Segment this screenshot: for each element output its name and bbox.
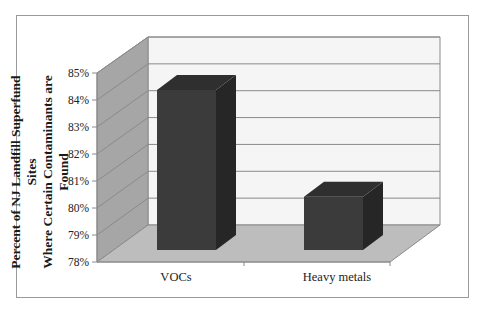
- y-axis-title-line-2: Where Certain Contaminants are Found: [40, 62, 72, 282]
- bar-heavy-metals: [304, 182, 383, 250]
- x-category-label: VOCs: [160, 270, 191, 284]
- y-axis-title-line-1: Percent of NJ Landfill Superfund Sites: [8, 62, 40, 282]
- chart-plot: 78%79%80%81%82%83%84%85% VOCsHeavy metal…: [0, 0, 483, 324]
- floor: [97, 225, 440, 262]
- x-category-label: Heavy metals: [303, 270, 372, 284]
- x-axis-categories: VOCsHeavy metals: [160, 270, 371, 284]
- y-axis-title: Percent of NJ Landfill Superfund Sites W…: [8, 62, 72, 282]
- bar-vocs: [157, 75, 236, 250]
- y-axis-ticks: 78%79%80%81%82%83%84%85%: [68, 67, 97, 268]
